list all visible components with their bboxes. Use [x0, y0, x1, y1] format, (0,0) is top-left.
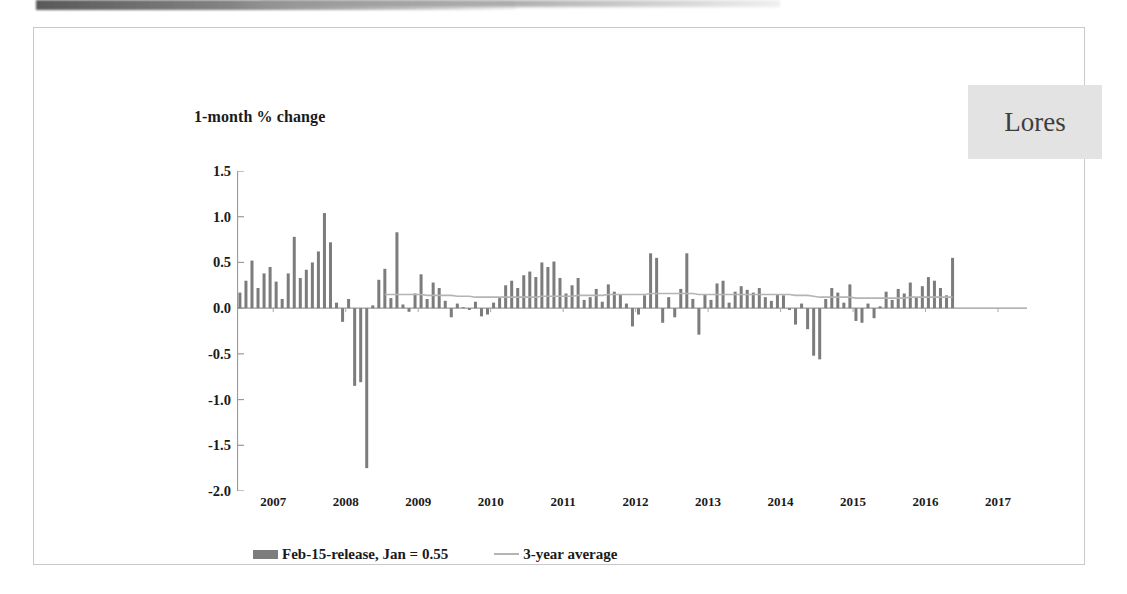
- bar: [335, 303, 338, 308]
- bar: [873, 308, 876, 318]
- y-tick-label: -2.0: [208, 483, 231, 500]
- bar: [583, 300, 586, 308]
- bar: [903, 294, 906, 309]
- bar: [860, 308, 863, 323]
- bar: [885, 292, 888, 308]
- bar: [238, 293, 241, 309]
- bar: [625, 304, 628, 309]
- chart-legend: Feb-15-release, Jan = 0.55 3-year averag…: [253, 546, 617, 563]
- bar: [317, 251, 320, 308]
- bar: [401, 304, 404, 308]
- bar: [661, 308, 664, 323]
- bar: [794, 308, 797, 324]
- bar: [818, 308, 821, 359]
- bar: [456, 304, 459, 309]
- bar: [438, 288, 441, 308]
- bar: [257, 288, 260, 308]
- y-tick-label: -1.0: [208, 391, 231, 408]
- bar: [691, 299, 694, 308]
- x-tick-label: 2015: [840, 494, 866, 510]
- legend-bar-swatch: [253, 550, 278, 559]
- chart-svg: [237, 171, 1027, 491]
- y-tick-label: 1.5: [213, 163, 231, 180]
- legend-label-bars: Feb-15-release, Jan = 0.55: [282, 546, 448, 563]
- y-axis-labels: 1.51.00.50.0-0.5-1.0-1.5-2.0: [184, 171, 231, 491]
- bar: [776, 294, 779, 308]
- bar: [287, 273, 290, 308]
- bar: [879, 306, 882, 308]
- bar: [498, 298, 501, 308]
- bar: [492, 303, 495, 308]
- y-tick-label: 1.0: [213, 208, 231, 225]
- bar: [263, 273, 266, 308]
- legend-entry-bars: Feb-15-release, Jan = 0.55: [253, 546, 448, 563]
- bar: [867, 304, 870, 309]
- bar: [480, 308, 483, 316]
- bar: [510, 281, 513, 308]
- bar: [389, 298, 392, 308]
- x-tick-label: 2008: [333, 494, 359, 510]
- x-tick-label: 2013: [695, 494, 721, 510]
- x-tick-label: 2011: [550, 494, 575, 510]
- bar: [395, 232, 398, 308]
- bar: [788, 308, 791, 310]
- bar: [353, 308, 356, 386]
- bar: [927, 277, 930, 308]
- bar: [830, 288, 833, 308]
- bar: [607, 284, 610, 308]
- bar: [408, 308, 411, 312]
- bar: [468, 308, 471, 310]
- bar: [824, 299, 827, 308]
- slide-frame: 1-month % change Lores 1.51.00.50.0-0.5-…: [33, 27, 1085, 565]
- y-tick-label: -0.5: [208, 345, 231, 362]
- bar: [951, 258, 954, 308]
- bar: [758, 288, 761, 308]
- y-tick-label: -1.5: [208, 437, 231, 454]
- bar: [359, 308, 362, 382]
- bar: [534, 277, 537, 308]
- bar: [540, 262, 543, 308]
- bar: [685, 253, 688, 308]
- bar: [601, 302, 604, 308]
- bar: [552, 262, 555, 309]
- bar: [589, 297, 592, 308]
- bar: [728, 303, 731, 308]
- bar: [275, 282, 278, 309]
- bar: [365, 308, 368, 468]
- bar: [673, 308, 676, 317]
- x-axis-labels: 2007200820092010201120122013201420152016…: [237, 494, 1027, 518]
- bar: [244, 281, 247, 308]
- bar: [558, 278, 561, 308]
- bar: [311, 262, 314, 308]
- bar: [643, 295, 646, 308]
- bar: [522, 275, 525, 308]
- bar: [516, 288, 519, 308]
- bar: [848, 284, 851, 308]
- chart-title: 1-month % change: [194, 108, 325, 126]
- x-tick-label: 2016: [913, 494, 939, 510]
- bar: [746, 290, 749, 308]
- bar: [800, 304, 803, 309]
- x-tick-label: 2009: [405, 494, 431, 510]
- bar: [486, 308, 489, 314]
- bar: [444, 301, 447, 308]
- bar: [764, 297, 767, 308]
- x-tick-label: 2012: [623, 494, 649, 510]
- bar: [915, 297, 918, 308]
- bar: [842, 303, 845, 308]
- y-tick-label: 0.5: [213, 254, 231, 271]
- bar: [649, 253, 652, 308]
- bar: [414, 294, 417, 309]
- bar: [329, 242, 332, 308]
- bar: [619, 294, 622, 308]
- bar: [281, 299, 284, 308]
- bar: [299, 278, 302, 308]
- bar: [631, 308, 634, 326]
- bar: [854, 308, 857, 321]
- x-tick-label: 2010: [478, 494, 504, 510]
- bar: [250, 261, 253, 309]
- bar: [703, 294, 706, 308]
- bar: [595, 289, 598, 308]
- bar: [909, 283, 912, 309]
- bar: [939, 288, 942, 308]
